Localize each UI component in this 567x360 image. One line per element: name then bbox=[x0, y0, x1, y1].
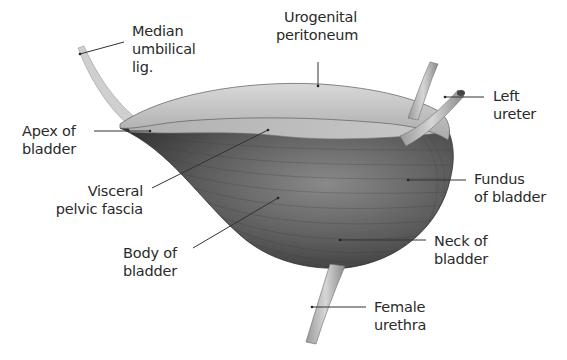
label-urogenital-peritoneum: Urogenital peritoneum bbox=[276, 8, 358, 44]
label-neck-of-bladder: Neck of bladder bbox=[434, 232, 488, 268]
label-visceral-pelvic-fascia: Visceral pelvic fascia bbox=[48, 182, 143, 218]
label-female-urethra: Female urethra bbox=[374, 298, 426, 334]
label-median-umbilical-lig: Median umbilical lig. bbox=[132, 22, 196, 76]
urethra-shape bbox=[306, 264, 345, 344]
label-body-of-bladder: Body of bladder bbox=[123, 244, 177, 280]
bladder-diagram: Median umbilical lig. Urogenital periton… bbox=[0, 0, 567, 360]
median-umbilical-ligament-shape bbox=[78, 46, 136, 124]
label-apex-of-bladder: Apex of bladder bbox=[22, 122, 76, 158]
label-left-ureter: Left ureter bbox=[493, 87, 536, 123]
label-fundus-of-bladder: Fundus of bladder bbox=[474, 170, 546, 206]
